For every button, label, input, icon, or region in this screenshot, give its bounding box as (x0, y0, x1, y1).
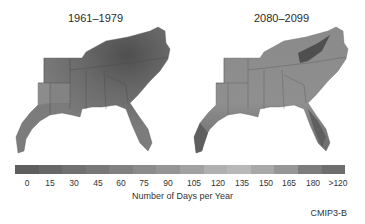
colorbar-ticks: 0 15 30 45 60 75 90 105 120 135 150 165 … (15, 178, 350, 190)
colorbar-segment (62, 165, 86, 174)
tick-label: 105 (187, 178, 201, 188)
colorbar-segment (322, 165, 346, 174)
tick-label: 30 (69, 178, 78, 188)
tick-label: 15 (45, 178, 54, 188)
colorbar-segment (109, 165, 133, 174)
colorbar-segment (274, 165, 298, 174)
map-historical (10, 25, 185, 160)
tick-label: 45 (93, 178, 102, 188)
colorbar-segment (251, 165, 275, 174)
colorbar-segment (15, 165, 39, 174)
tick-label: 60 (116, 178, 125, 188)
colorbar-axis-label: Number of Days per Year (0, 191, 365, 201)
model-source-label: CMIP3-B (310, 208, 347, 218)
tick-label: >120 (328, 178, 347, 188)
colorbar-segment (180, 165, 204, 174)
tick-label: 180 (306, 178, 320, 188)
map-future (190, 25, 360, 160)
tick-label: 165 (282, 178, 296, 188)
colorbar-segment (298, 165, 322, 174)
tick-label: 135 (235, 178, 249, 188)
tick-label: 75 (139, 178, 148, 188)
colorbar-segment (156, 165, 180, 174)
colorbar-segment (133, 165, 157, 174)
colorbar-segment (227, 165, 251, 174)
tick-label: 150 (259, 178, 273, 188)
colorbar-segment (86, 165, 110, 174)
colorbar-segment (39, 165, 63, 174)
tick-label: 0 (25, 178, 30, 188)
tick-label: 90 (163, 178, 172, 188)
panel-title-historical: 1961–1979 (68, 12, 123, 24)
panel-title-future: 2080–2099 (254, 12, 309, 24)
colorbar (15, 165, 345, 174)
tick-label: 120 (211, 178, 225, 188)
colorbar-segment (204, 165, 228, 174)
